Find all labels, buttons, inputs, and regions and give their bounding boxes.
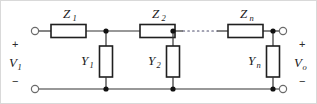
shunt-admittance-y1-body <box>100 46 113 77</box>
junction-dot <box>103 28 108 33</box>
label-y2: Y 2 <box>148 53 162 70</box>
label-output-voltage: V o <box>294 55 307 72</box>
input-polarity-minus: − <box>12 75 18 87</box>
label-z1-symbol: Z <box>63 6 71 21</box>
label-y1-subscript: 1 <box>90 60 94 70</box>
junction-dot <box>270 86 275 91</box>
series-impedance-z2 <box>140 25 175 38</box>
output-terminal-negative <box>279 85 286 92</box>
label-z2-subscript: 2 <box>162 13 167 23</box>
shunt-admittance-y2-body <box>167 46 180 77</box>
label-y2-subscript: 2 <box>157 60 162 70</box>
label-z2: Z 2 <box>152 6 167 23</box>
input-polarity-plus: + <box>12 38 18 50</box>
shunt-admittance-yn-body <box>267 46 280 77</box>
series-impedance-zn <box>228 25 263 38</box>
label-yn-subscript: n <box>257 60 261 70</box>
input-terminal-negative <box>31 85 38 92</box>
label-zn: Z n <box>240 6 254 23</box>
series-impedance-z1 <box>51 25 86 38</box>
label-z1: Z 1 <box>63 6 77 23</box>
junction-dot <box>170 86 175 91</box>
output-polarity-minus: − <box>299 75 305 87</box>
shunt-branch-y1 <box>100 31 113 89</box>
label-yn: Y n <box>248 53 261 70</box>
label-input-voltage: V 1 <box>9 55 22 72</box>
output-terminal-positive <box>279 27 286 34</box>
label-z1-subscript: 1 <box>73 13 77 23</box>
circuit-diagram-figure: Z 1 Z 2 Z n Y 1 Y 2 Y n + V 1 − <box>0 0 317 104</box>
label-y1: Y 1 <box>81 53 94 70</box>
junction-dot <box>270 28 275 33</box>
input-voltage-subscript: 1 <box>18 62 22 72</box>
input-terminal-positive <box>31 27 38 34</box>
output-voltage-subscript: o <box>303 62 307 72</box>
label-zn-subscript: n <box>250 13 254 23</box>
label-z2-symbol: Z <box>152 6 160 21</box>
shunt-branch-y2 <box>167 31 180 89</box>
junction-dot <box>103 86 108 91</box>
output-polarity-plus: + <box>299 38 305 50</box>
shunt-branch-yn <box>267 31 280 89</box>
junction-dot <box>170 28 175 33</box>
label-zn-symbol: Z <box>240 6 248 21</box>
